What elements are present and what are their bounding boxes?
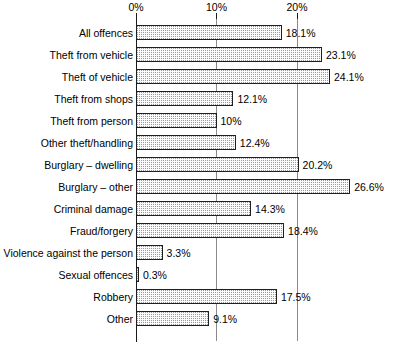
bar [136, 47, 322, 62]
bar-value-label: 9.1% [213, 312, 237, 325]
bar-value-label: 12.4% [240, 136, 270, 149]
bar-row: Burglary – other26.6% [0, 179, 394, 194]
bar-row: Robbery17.5% [0, 289, 394, 304]
bar [136, 91, 233, 106]
bar [136, 311, 209, 326]
bar-chart: 0%10%20% All offences18.1%Theft from veh… [0, 0, 394, 354]
bar-value-label: 20.2% [303, 158, 333, 171]
category-label: Criminal damage [54, 202, 133, 215]
bar-value-label: 17.5% [281, 290, 311, 303]
tick-mark-20% [297, 13, 298, 19]
category-label: Other theft/handling [41, 136, 133, 149]
bar [136, 289, 277, 304]
bar [136, 25, 282, 40]
bar-value-label: 0.3% [143, 268, 167, 281]
bar-value-label: 23.1% [326, 48, 356, 61]
bar [136, 157, 299, 172]
bar-row: Theft of vehicle24.1% [0, 69, 394, 84]
tick-mark-10% [216, 13, 217, 19]
category-label: Other [107, 312, 133, 325]
category-label: Burglary – other [58, 180, 133, 193]
bar-row: Fraud/forgery18.4% [0, 223, 394, 238]
bar [136, 201, 251, 216]
bar-row: Other9.1% [0, 311, 394, 326]
category-label: Violence against the person [4, 246, 133, 259]
bar [136, 113, 217, 128]
category-label: Burglary – dwelling [44, 158, 133, 171]
category-label: Theft from person [50, 114, 133, 127]
category-label: Theft from vehicle [50, 48, 133, 61]
bar [136, 245, 163, 260]
axis-tick-label: 20% [286, 1, 307, 13]
bar-row: Sexual offences0.3% [0, 267, 394, 282]
bar-value-label: 26.6% [354, 180, 384, 193]
axis-tick-label: 0% [128, 1, 143, 13]
category-label: Fraud/forgery [70, 224, 133, 237]
bar [136, 267, 139, 282]
bar [136, 179, 350, 194]
bar-row: Violence against the person3.3% [0, 245, 394, 260]
category-label: All offences [79, 26, 133, 39]
bar-value-label: 12.1% [237, 92, 267, 105]
bar-row: Burglary – dwelling20.2% [0, 157, 394, 172]
category-label: Robbery [93, 290, 133, 303]
bar-row: Other theft/handling12.4% [0, 135, 394, 150]
category-label: Sexual offences [58, 268, 133, 281]
bar-value-label: 10% [221, 114, 242, 127]
bar-row: Theft from person10% [0, 113, 394, 128]
bar [136, 69, 330, 84]
bar-row: Criminal damage14.3% [0, 201, 394, 216]
bar-row: Theft from vehicle23.1% [0, 47, 394, 62]
bar-value-label: 24.1% [334, 70, 364, 83]
bar-value-label: 18.4% [288, 224, 318, 237]
bar [136, 223, 284, 238]
bar-value-label: 18.1% [286, 26, 316, 39]
bar-row: All offences18.1% [0, 25, 394, 40]
category-label: Theft from shops [54, 92, 133, 105]
bar-value-label: 14.3% [255, 202, 285, 215]
axis-tick-label: 10% [206, 1, 227, 13]
bar [136, 135, 236, 150]
tick-mark-0% [136, 13, 137, 19]
bar-value-label: 3.3% [167, 246, 191, 259]
bar-row: Theft from shops12.1% [0, 91, 394, 106]
category-label: Theft of vehicle [62, 70, 133, 83]
plot-area: 0%10%20% All offences18.1%Theft from veh… [0, 0, 394, 354]
